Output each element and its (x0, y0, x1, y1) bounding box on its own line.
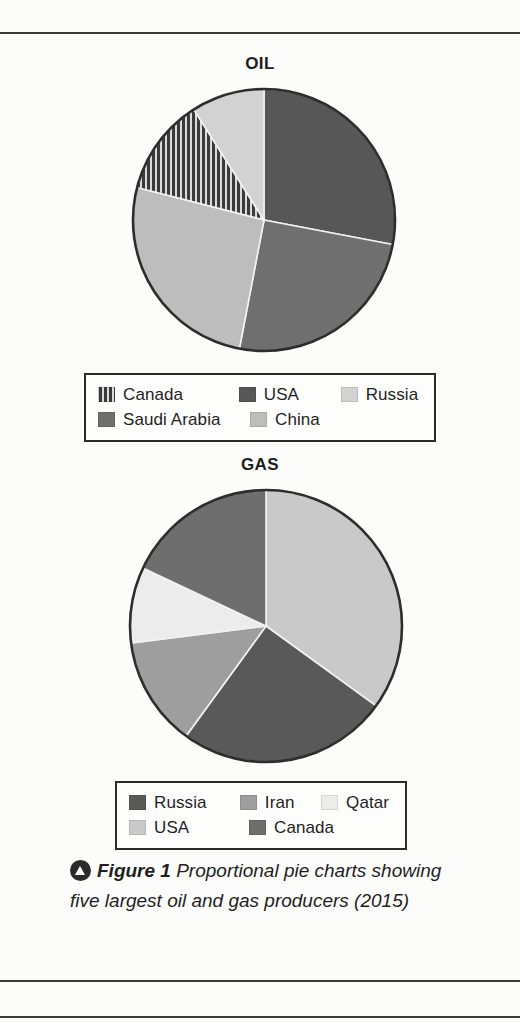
legend-item-gas-qatar[interactable]: Qatar (321, 793, 395, 813)
legend-swatch-usa-icon (239, 387, 256, 402)
figure-caption: Figure 1 Proportional pie charts showing… (70, 856, 460, 916)
page-rule-top (0, 32, 520, 34)
oil-chart-title: OIL (0, 54, 520, 74)
gas-slice-group (130, 490, 402, 762)
legend-item-canada[interactable]: Canada (98, 385, 239, 405)
legend-item-gas-russia[interactable]: Russia (129, 793, 240, 813)
legend-label-usa: USA (264, 385, 299, 405)
legend-swatch-gas-qatar-icon (321, 795, 338, 810)
legend-label-russia: Russia (366, 385, 419, 405)
legend-label-saudi-arabia: Saudi Arabia (123, 410, 221, 430)
legend-label-gas-iran: Iran (265, 793, 295, 813)
legend-label-canada: Canada (123, 385, 183, 405)
page-rule-bottom-2 (0, 1016, 520, 1018)
legend-item-gas-usa[interactable]: USA (129, 818, 249, 838)
legend-swatch-gas-iran-icon (240, 795, 257, 810)
legend-item-saudi-arabia[interactable]: Saudi Arabia (98, 410, 250, 430)
legend-label-gas-qatar: Qatar (346, 793, 389, 813)
legend-label-gas-russia: Russia (154, 793, 207, 813)
legend-item-gas-iran[interactable]: Iran (240, 793, 321, 813)
figure-page: OIL Canada USA Russi (0, 0, 520, 1023)
figure-number: Figure 1 (97, 860, 171, 881)
oil-slice-saudi-arabia (239, 220, 392, 351)
oil-legend-row-1: Canada USA Russia (98, 382, 424, 407)
legend-swatch-gas-russia-icon (129, 795, 146, 810)
legend-label-gas-canada: Canada (274, 818, 334, 838)
gas-pie-svg (127, 487, 405, 765)
legend-swatch-gas-usa-icon (129, 820, 146, 835)
oil-slice-usa (264, 89, 395, 245)
gas-legend-row-1: Russia Iran Qatar (129, 790, 395, 815)
legend-item-usa[interactable]: USA (239, 385, 341, 405)
gas-legend-row-2: USA Canada (129, 815, 395, 840)
page-rule-bottom-1 (0, 980, 520, 982)
legend-item-russia[interactable]: Russia (341, 385, 424, 405)
legend-swatch-canada-icon (98, 387, 115, 402)
oil-slice-group (133, 89, 395, 351)
legend-item-gas-canada[interactable]: Canada (249, 818, 337, 838)
oil-legend: Canada USA Russia Saudi Arabia China (84, 373, 436, 442)
gas-chart-title: GAS (0, 455, 520, 475)
oil-pie-svg (130, 86, 398, 354)
legend-label-gas-usa: USA (154, 818, 189, 838)
oil-legend-row-2: Saudi Arabia China (98, 407, 424, 432)
legend-swatch-russia-icon (341, 387, 358, 402)
gas-legend: Russia Iran Qatar USA Canada (115, 781, 407, 850)
gas-pie-chart (127, 487, 405, 765)
legend-label-china: China (275, 410, 320, 430)
triangle-up-circle-icon (70, 860, 91, 881)
oil-pie-chart (130, 86, 398, 354)
legend-item-china[interactable]: China (250, 410, 360, 430)
legend-swatch-gas-canada-icon (249, 820, 266, 835)
legend-swatch-china-icon (250, 412, 267, 427)
legend-swatch-saudi-arabia-icon (98, 412, 115, 427)
